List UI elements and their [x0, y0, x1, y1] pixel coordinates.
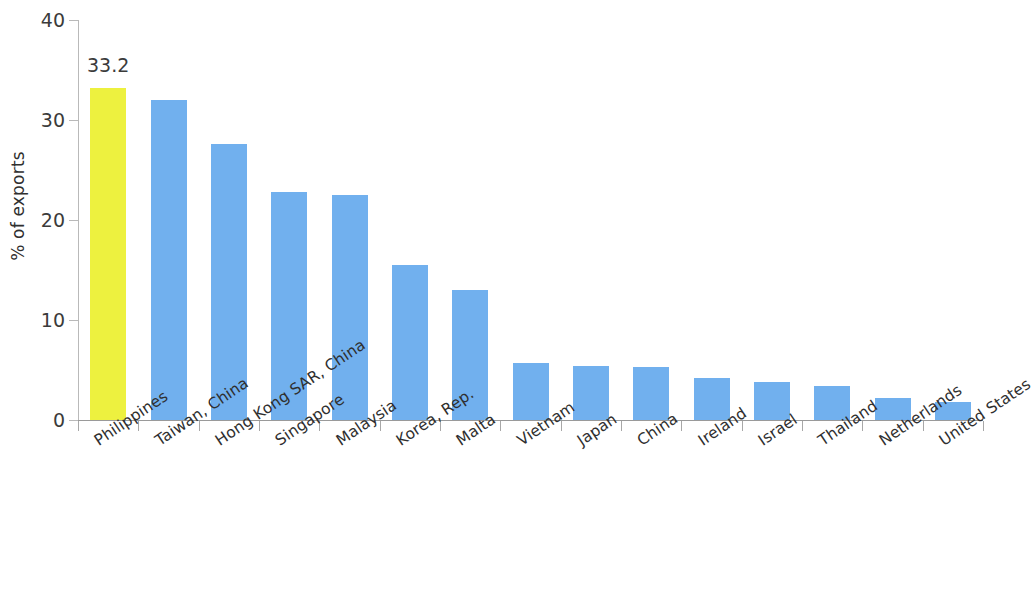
bar[interactable]: [151, 100, 187, 420]
y-axis-tick-mark: [69, 420, 78, 421]
bar-value-label: 33.2: [68, 54, 148, 76]
x-axis-tick-mark: [681, 421, 682, 431]
bar[interactable]: [332, 195, 368, 420]
x-axis-tick-mark: [802, 421, 803, 431]
x-axis-tick-mark: [78, 421, 79, 431]
y-axis-tick-mark: [69, 120, 78, 121]
bar[interactable]: [573, 366, 609, 420]
bar[interactable]: [633, 367, 669, 420]
bar[interactable]: [392, 265, 428, 420]
y-axis-tick-mark: [69, 20, 78, 21]
plot-area: 403020100 33.2 PhilippinesTaiwan, ChinaH…: [78, 20, 983, 421]
x-axis-tick-mark: [621, 421, 622, 431]
bar[interactable]: [90, 88, 126, 420]
y-axis-tick-label: 10: [41, 309, 65, 331]
bar[interactable]: [513, 363, 549, 420]
y-axis-tick-mark: [69, 220, 78, 221]
x-axis-tick-mark: [500, 421, 501, 431]
y-axis-tick-label: 40: [41, 9, 65, 31]
y-axis-title: % of exports: [8, 126, 28, 286]
y-axis-tick-label: 0: [53, 409, 65, 431]
y-axis-tick-label: 20: [41, 209, 65, 231]
y-axis-line: [78, 20, 79, 421]
y-axis-tick-label: 30: [41, 109, 65, 131]
y-axis-tick-mark: [69, 320, 78, 321]
